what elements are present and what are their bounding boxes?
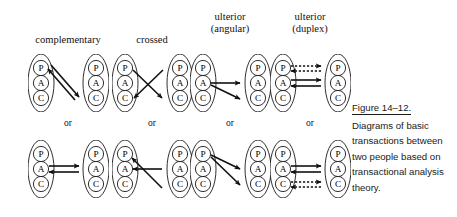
- ego-state-label-C: C: [335, 179, 341, 189]
- figure-caption-title: Figure 14–12.: [352, 101, 411, 115]
- ego-state-label-C: C: [200, 93, 206, 103]
- figure-caption-line: Diagrams of basic: [352, 118, 455, 134]
- ego-state-label-A: A: [200, 78, 207, 88]
- ego-state-label-A: A: [335, 164, 342, 174]
- left-person: PAC: [28, 140, 54, 198]
- left-person: PAC: [112, 54, 138, 112]
- ego-state-label-P: P: [200, 149, 205, 159]
- ego-state-label-A: A: [280, 164, 287, 174]
- ego-state-label-P: P: [93, 63, 98, 73]
- right-person: PAC: [83, 54, 109, 112]
- transaction-diagram-complementary-bottom: PACPAC: [28, 140, 109, 198]
- ego-state-label-C: C: [93, 179, 99, 189]
- ego-state-label-P: P: [177, 63, 182, 73]
- ego-state-label-A: A: [255, 78, 262, 88]
- ego-state-label-P: P: [177, 149, 182, 159]
- ego-state-label-A: A: [122, 164, 129, 174]
- column-header-crossed: crossed: [92, 34, 212, 46]
- figure-caption: Figure 14–12. Diagrams of basictransacti…: [352, 100, 455, 196]
- ego-state-label-P: P: [122, 149, 127, 159]
- ego-state-label-A: A: [177, 164, 184, 174]
- ego-state-label-C: C: [335, 93, 341, 103]
- ego-state-label-C: C: [177, 93, 183, 103]
- ego-state-label-C: C: [122, 179, 128, 189]
- right-person: PAC: [325, 54, 351, 112]
- right-person: PAC: [245, 140, 271, 198]
- or-label-crossed: or: [132, 118, 172, 128]
- ego-state-label-P: P: [200, 63, 205, 73]
- ego-state-label-A: A: [280, 78, 287, 88]
- transaction-diagram-crossed-top: PACPAC: [112, 54, 193, 112]
- ego-state-label-P: P: [280, 63, 285, 73]
- column-header-line: (duplex): [250, 23, 370, 35]
- transaction-diagram-ulterior-duplex-bottom: PACPAC: [270, 140, 351, 198]
- ego-state-label-C: C: [280, 179, 286, 189]
- ego-state-label-C: C: [93, 93, 99, 103]
- right-person: PAC: [83, 140, 109, 198]
- ego-state-label-C: C: [177, 179, 183, 189]
- figure-caption-line: transactional analysis: [352, 164, 455, 180]
- ego-state-label-A: A: [177, 78, 184, 88]
- ego-state-label-A: A: [93, 164, 100, 174]
- column-header-line: ulterior: [250, 11, 370, 23]
- figure-caption-line: two people based on: [352, 149, 455, 165]
- ego-state-label-P: P: [93, 149, 98, 159]
- ego-state-label-A: A: [255, 164, 262, 174]
- transaction-diagram-ulterior-angular-bottom: PACPAC: [190, 140, 271, 198]
- ego-state-label-A: A: [335, 78, 342, 88]
- transaction-diagram-ulterior-duplex-top: PACPAC: [270, 54, 351, 112]
- ego-state-label-C: C: [38, 93, 44, 103]
- figure-caption-line: transactions between: [352, 133, 455, 149]
- ego-state-label-C: C: [122, 93, 128, 103]
- left-person: PAC: [270, 54, 296, 112]
- ego-state-label-P: P: [280, 149, 285, 159]
- right-person: PAC: [245, 54, 271, 112]
- or-label-ulterior-angular: or: [210, 118, 250, 128]
- ego-state-label-A: A: [38, 164, 45, 174]
- left-person: PAC: [190, 140, 216, 198]
- transaction-diagram-crossed-bottom: PACPAC: [112, 140, 193, 198]
- figure-caption-body: Diagrams of basictransactions betweentwo…: [352, 118, 455, 196]
- ego-state-label-C: C: [200, 179, 206, 189]
- ego-state-label-A: A: [200, 164, 207, 174]
- transaction-diagram-complementary-top: PACPAC: [28, 54, 109, 112]
- ego-state-label-P: P: [335, 63, 340, 73]
- column-header-line: crossed: [92, 34, 212, 46]
- figure-caption-line: theory.: [352, 180, 455, 196]
- ego-state-label-P: P: [38, 149, 43, 159]
- column-header-ulterior-duplex: ulterior(duplex): [250, 11, 370, 34]
- ego-state-label-A: A: [93, 78, 100, 88]
- ego-state-label-P: P: [122, 63, 127, 73]
- left-person: PAC: [28, 54, 54, 112]
- ego-state-label-C: C: [38, 179, 44, 189]
- or-label-complementary: or: [48, 118, 88, 128]
- ego-state-label-A: A: [38, 78, 45, 88]
- ego-state-label-P: P: [255, 149, 260, 159]
- left-person: PAC: [270, 140, 296, 198]
- ego-state-label-P: P: [335, 149, 340, 159]
- ego-state-label-C: C: [255, 93, 261, 103]
- transaction-arrow-P-to-C: [51, 65, 79, 97]
- ego-state-label-P: P: [38, 63, 43, 73]
- ego-state-label-C: C: [255, 179, 261, 189]
- ego-state-label-C: C: [280, 93, 286, 103]
- or-label-ulterior-duplex: or: [290, 118, 330, 128]
- right-person: PAC: [325, 140, 351, 198]
- ego-state-label-P: P: [255, 63, 260, 73]
- ego-state-label-A: A: [122, 78, 129, 88]
- transaction-diagram-ulterior-angular-top: PACPAC: [190, 54, 271, 112]
